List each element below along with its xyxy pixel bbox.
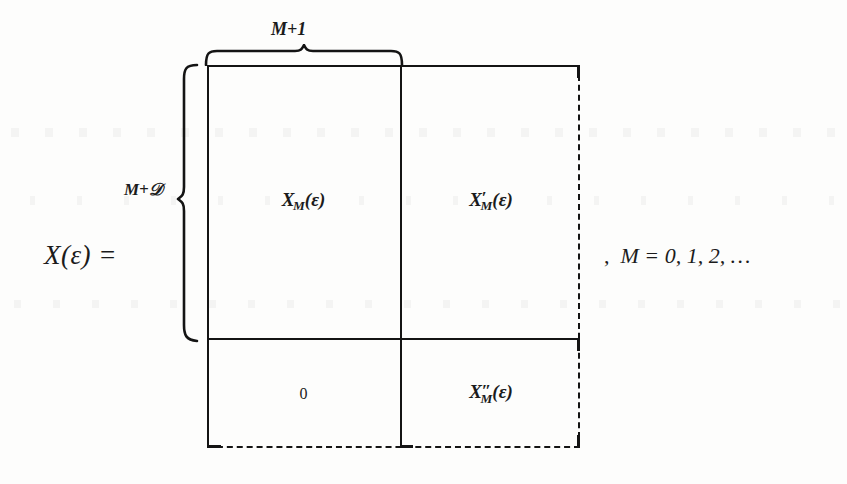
cell-x-m-expression: XM(ε): [282, 189, 326, 214]
left-brace-label-symbol: 𝒟: [149, 179, 163, 199]
primed-base: X′: [469, 189, 482, 211]
cell-x-m-prime-expression: X′M(ε): [469, 189, 513, 214]
left-brace-label: M+𝒟: [124, 179, 163, 200]
equation-trailing-condition: , M = 0, 1, 2, …: [604, 243, 750, 269]
left-brace-label-prefix: M+: [124, 180, 149, 199]
top-brace-label: M+1: [271, 19, 306, 40]
cell-zero-value: 0: [300, 385, 308, 403]
equation-left-hand-side: X(ε) =: [44, 240, 117, 271]
cell-x-m: XM(ε): [207, 65, 400, 338]
cell-x-m-double-prime: X″M(ε): [402, 340, 580, 448]
cell-x-m-prime: X′M(ε): [402, 65, 580, 338]
equation-figure: X(ε) = M+1 M+𝒟 XM(ε) X′M(ε) 0: [0, 0, 847, 484]
horizontal-brace-icon: [203, 44, 405, 66]
double-primed-base: X″: [469, 381, 482, 403]
vertical-brace-icon: [176, 62, 200, 344]
prime-mark: ′: [482, 187, 487, 208]
double-prime-mark: ″: [482, 380, 492, 401]
cell-x-m-double-prime-expression: X″M(ε): [469, 381, 513, 406]
partitioned-matrix: XM(ε) X′M(ε) 0 X″M(ε): [207, 65, 580, 448]
cell-zero: 0: [207, 340, 400, 448]
trailing-comma: ,: [604, 243, 610, 268]
trailing-condition-text: M = 0, 1, 2, …: [621, 243, 751, 268]
